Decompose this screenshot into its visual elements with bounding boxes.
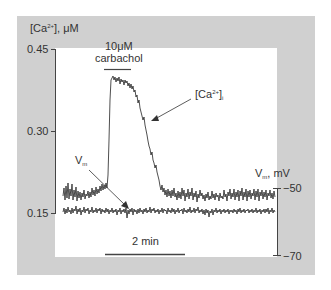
- calcium-trace: [63, 76, 275, 202]
- vm-arrow: [89, 170, 129, 209]
- right-axis: [273, 188, 281, 256]
- left-axis: [51, 49, 56, 214]
- membrane-potential-trace: [63, 206, 275, 218]
- chart-svg: [0, 0, 331, 290]
- calcium-arrow: [151, 99, 191, 121]
